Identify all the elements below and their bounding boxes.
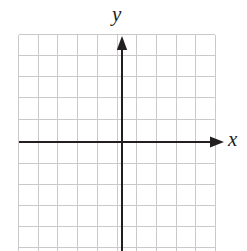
coordinate-grid-figure: y x [0,0,247,251]
figure-background [0,0,247,251]
coordinate-plane-svg [0,0,247,251]
x-axis-label: x [228,129,237,150]
y-axis-label: y [112,4,121,25]
